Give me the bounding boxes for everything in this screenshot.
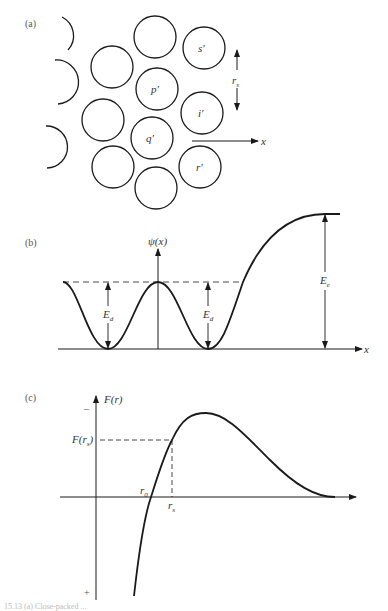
potential-energy-curve	[63, 214, 340, 349]
frs-label: F(rs)	[71, 433, 93, 448]
panel-c: (c) F(r) – + F(rs) r0 rs	[25, 392, 356, 600]
atom-bottom	[135, 167, 177, 209]
x-direction-label: x	[260, 135, 266, 147]
atom-s-label: s′	[198, 42, 205, 54]
panel-a: (a) s′ p′ i′ q′ r′ rs	[25, 16, 266, 209]
panel-b-label: (b)	[25, 237, 37, 249]
ed-label-right: Ed	[202, 308, 214, 323]
partial-atom-arc-2	[55, 60, 79, 104]
force-curve	[134, 413, 335, 596]
ee-label: Ee	[319, 274, 330, 289]
ed-label-left: Ed	[102, 308, 114, 323]
panel-a-label: (a)	[25, 18, 36, 30]
figure-caption: 15.13 (a) Close-packed ...	[4, 602, 384, 611]
panel-b: (b) x ψ(x) Ed Ed Ee	[25, 214, 369, 355]
b-y-axis-label: ψ(x)	[148, 235, 167, 248]
atom-upper-left	[91, 46, 133, 88]
c-y-plus: +	[84, 587, 90, 598]
atom-top	[134, 16, 176, 58]
rs-label: rs	[168, 499, 175, 514]
atom-r-label: r′	[196, 161, 203, 173]
partial-atom-arc-1	[62, 17, 74, 50]
spacing-label: rs	[232, 74, 239, 89]
atom-lower-left	[92, 146, 134, 188]
partial-atom-arc-3	[46, 126, 67, 168]
c-y-axis-label: F(r)	[103, 393, 123, 406]
b-x-axis-label: x	[363, 343, 369, 355]
atom-mid-left	[82, 99, 124, 141]
atom-p-label: p′	[150, 83, 160, 95]
atom-q-label: q′	[146, 132, 155, 144]
c-y-minus: –	[83, 403, 90, 414]
panel-c-label: (c)	[25, 392, 36, 404]
figure-canvas: (a) s′ p′ i′ q′ r′ rs	[0, 0, 388, 611]
atom-i-label: i′	[198, 107, 204, 119]
